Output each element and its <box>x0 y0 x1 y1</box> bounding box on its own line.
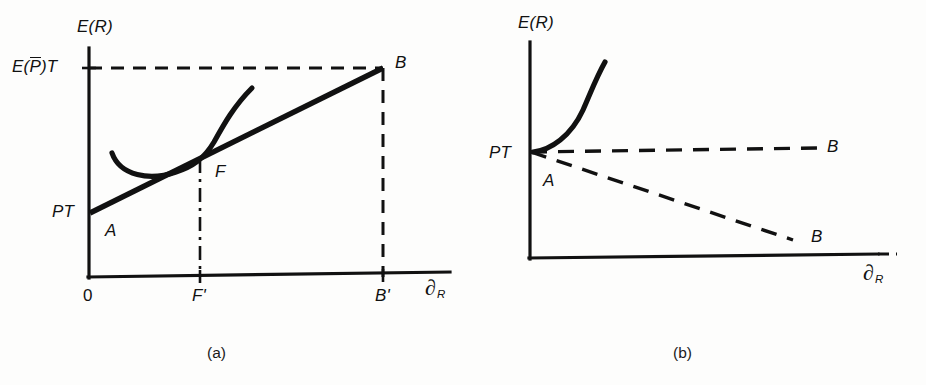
chart-panel-b: E(R) PT A B B ∂R (b) <box>463 0 926 385</box>
point-label-b-a: B <box>395 54 407 71</box>
point-label-b-upper: B <box>827 138 839 155</box>
x-axis-label-b: ∂R <box>863 262 884 286</box>
budget-line-ab <box>90 68 383 213</box>
y-axis-label-a: E(R) <box>77 18 113 35</box>
panel-caption-a: (a) <box>207 344 226 362</box>
point-label-a-b: A <box>543 172 555 189</box>
x-axis-a <box>88 272 450 277</box>
flat-dashed-line-to-b <box>531 148 818 152</box>
x-tick-label-fprime-a: F' <box>192 287 206 304</box>
rising-curve-b <box>533 62 605 152</box>
point-label-f-a: F <box>215 163 226 180</box>
indifference-curve-a <box>112 88 252 176</box>
x-tick-label-bprime-a: B' <box>375 287 390 304</box>
x-axis-b <box>529 254 878 258</box>
y-intercept-label-pt-b: PT <box>489 144 511 161</box>
y-tick-label-epbart: E(P)T <box>12 58 57 75</box>
x-axis-label-a: ∂R <box>425 277 446 301</box>
panel-b-svg <box>463 0 926 385</box>
declining-dashed-line-to-b <box>531 152 793 240</box>
x-tick-label-zero-a: 0 <box>83 287 93 304</box>
y-axis-label-b: E(R) <box>518 14 554 31</box>
panel-a-svg <box>0 0 463 385</box>
panel-caption-b: (b) <box>673 344 692 362</box>
chart-panel-a: E(R) E(P)T PT A F B 0 F' B' ∂R <box>0 0 463 385</box>
figure-root: E(R) E(P)T PT A F B 0 F' B' ∂R <box>0 0 926 385</box>
point-label-a-a: A <box>105 222 117 239</box>
point-label-b-lower: B <box>811 228 823 245</box>
y-intercept-label-pt-a: PT <box>52 203 74 220</box>
